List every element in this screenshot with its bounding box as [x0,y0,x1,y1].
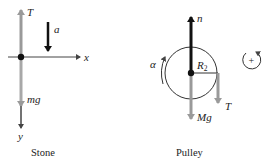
pulley-panel: + n R2 α T Mg Pulley [150,12,261,158]
pulley-axle [188,70,194,76]
stone-point [18,54,24,60]
alpha-label: α [150,58,156,70]
tension-label: T [27,6,34,18]
radius-label: R2 [196,59,208,73]
stone-panel: T a x mg y Stone [8,6,89,158]
pulley-tension-label: T [225,100,232,112]
normal-label: n [197,12,203,24]
stone-caption: Stone [31,147,55,158]
weight-label: mg [27,93,41,105]
pulley-caption: Pulley [176,147,204,158]
positive-rotation-icon: + [243,52,261,69]
free-body-diagram: T a x mg y Stone + n R2 α T Mg Pulley [0,0,267,162]
acceleration-label: a [54,23,60,35]
svg-text:+: + [249,55,255,66]
angular-acceleration-arrow-icon [161,57,165,84]
pulley-weight-label: Mg [196,111,212,123]
y-axis-label: y [17,130,23,142]
x-axis-label: x [83,51,89,63]
